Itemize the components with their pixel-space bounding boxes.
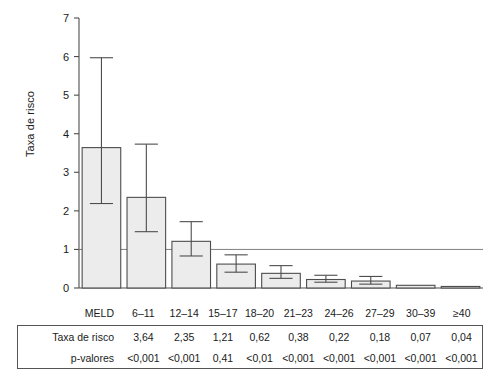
table-column-header: 27–29	[360, 304, 401, 326]
y-tick-label: 5	[63, 89, 69, 101]
table-cell: <0,001	[441, 347, 482, 369]
figure-container: Taxa de risco 01234567 MELD6–1112–1415–1…	[0, 0, 500, 392]
y-tick-label: 2	[63, 205, 69, 217]
table-cell: <0,01	[241, 347, 278, 369]
table-cell: <0,001	[123, 347, 164, 369]
y-tick-label: 1	[63, 243, 69, 255]
table-cell: 0,04	[441, 326, 482, 348]
table-cell: 0,38	[278, 326, 319, 348]
table-cell: 0,41	[205, 347, 242, 369]
table-row: p-valores<0,001<0,0010,41<0,01<0,001<0,0…	[18, 347, 483, 369]
table-column-header: ≥40	[441, 304, 482, 326]
table-row-label: p-valores	[18, 347, 124, 369]
table-column-header: 30–39	[400, 304, 441, 326]
table-row-label: Taxa de risco	[18, 326, 124, 348]
table-column-header: 12–14	[164, 304, 205, 326]
table-cell: 0,62	[241, 326, 278, 348]
table-cell: <0,001	[278, 347, 319, 369]
table-column-header: 6–11	[123, 304, 164, 326]
bar-chart-svg: 01234567	[0, 0, 500, 300]
table-column-header: 18–20	[241, 304, 278, 326]
bar	[396, 285, 435, 288]
table-column-header: 21–23	[278, 304, 319, 326]
table-header-row: MELD6–1112–1415–1718–2021–2324–2627–2930…	[18, 304, 483, 326]
table-cell: 3,64	[123, 326, 164, 348]
y-tick-label: 0	[63, 282, 69, 294]
data-table-area: MELD6–1112–1415–1718–2021–2324–2627–2930…	[0, 300, 500, 392]
y-tick-label: 3	[63, 166, 69, 178]
table-column-header: 24–26	[319, 304, 360, 326]
meld-table: MELD6–1112–1415–1718–2021–2324–2627–2930…	[17, 304, 483, 369]
table-cell: <0,001	[400, 347, 441, 369]
table-cell: <0,001	[319, 347, 360, 369]
table-header-meld: MELD	[18, 304, 124, 326]
table-cell: 0,07	[400, 326, 441, 348]
table-row: Taxa de risco3,642,351,210,620,380,220,1…	[18, 326, 483, 348]
table-cell: 0,22	[319, 326, 360, 348]
table-column-header: 15–17	[205, 304, 242, 326]
table-cell: 0,18	[360, 326, 401, 348]
bar	[441, 286, 480, 288]
table-cell: 1,21	[205, 326, 242, 348]
table-cell: <0,001	[164, 347, 205, 369]
table-cell: 2,35	[164, 326, 205, 348]
chart-area: Taxa de risco 01234567	[0, 0, 500, 300]
table-cell: <0,001	[360, 347, 401, 369]
y-tick-label: 6	[63, 51, 69, 63]
y-tick-label: 4	[63, 128, 69, 140]
y-tick-label: 7	[63, 12, 69, 24]
